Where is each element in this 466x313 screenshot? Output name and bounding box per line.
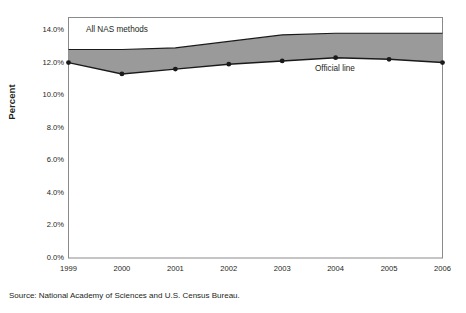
x-axis-tick-label: 2004	[316, 264, 356, 273]
chart-figure: Percent 14.0%12.0%10.0%8.0%6.0%4.0%2.0%0…	[0, 0, 466, 313]
band-annotation-label: All NAS methods	[86, 25, 148, 34]
y-axis-tick-label: 4.0%	[24, 188, 64, 197]
data-point-marker	[226, 62, 231, 67]
data-point-marker	[440, 60, 445, 65]
data-point-marker	[333, 55, 338, 60]
y-axis-tick-label: 10.0%	[24, 90, 64, 99]
y-axis-tick-label: 0.0%	[24, 253, 64, 262]
x-axis-tick-label: 2001	[155, 264, 195, 273]
x-axis-tick-label: 1999	[49, 264, 89, 273]
source-note: Source: National Academy of Sciences and…	[9, 291, 240, 300]
x-axis-tick-label: 2003	[262, 264, 302, 273]
nas-methods-band	[69, 33, 443, 74]
data-point-marker	[387, 57, 392, 62]
y-axis-tick-label: 8.0%	[24, 123, 64, 132]
data-point-marker	[66, 60, 71, 65]
line-annotation-label: Official line	[315, 64, 355, 73]
y-axis-tick-label: 12.0%	[24, 58, 64, 67]
y-axis-tick-label: 2.0%	[24, 220, 64, 229]
data-point-marker	[280, 59, 285, 64]
data-point-marker	[120, 72, 125, 77]
data-point-marker	[173, 67, 178, 72]
y-axis-tick-label: 14.0%	[24, 25, 64, 34]
x-axis-tick-label: 2002	[209, 264, 249, 273]
x-axis-tick-label: 2000	[102, 264, 142, 273]
y-axis-tick-label: 6.0%	[24, 155, 64, 164]
x-axis-tick-label: 2006	[423, 264, 463, 273]
x-axis-tick-label: 2005	[369, 264, 409, 273]
